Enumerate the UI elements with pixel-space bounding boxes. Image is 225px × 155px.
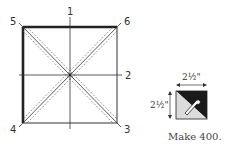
unit-block: [168, 83, 207, 119]
diagram-canvas: 1 2 3 4 5 6 2½" 2½" Make 400.: [0, 0, 225, 155]
point-label-3: 3: [124, 124, 130, 135]
point-label-4: 4: [10, 124, 16, 135]
point-label-6: 6: [124, 16, 130, 27]
point-label-2: 2: [125, 70, 131, 81]
width-label: 2½": [182, 72, 201, 82]
caption: Make 400.: [168, 131, 222, 142]
point-label-1: 1: [67, 6, 73, 17]
point-label-5: 5: [10, 16, 16, 27]
cutting-square: [19, 17, 122, 129]
height-label: 2½": [150, 100, 169, 110]
